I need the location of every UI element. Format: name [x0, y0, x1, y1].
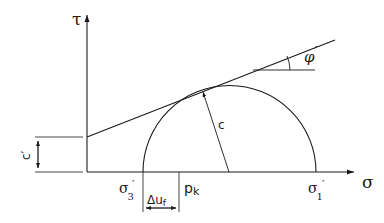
sigma1-label: σ1′: [308, 178, 325, 202]
mohr-diagram: τ σ φ′ c c′ σ3′ pk Δuf σ1′: [0, 0, 384, 223]
delta-u-label: Δuf: [147, 193, 167, 208]
radius-c-line: [203, 92, 229, 172]
failure-envelope-line: [87, 40, 335, 137]
phi-prime-label: φ′: [304, 45, 318, 66]
mohr-circle: [143, 86, 316, 173]
radius-c-label: c: [218, 118, 225, 132]
sigma3-label: σ3′: [119, 178, 135, 202]
pk-label: pk: [184, 180, 200, 198]
sigma-axis-label: σ: [362, 172, 374, 192]
tau-axis-label: τ: [72, 9, 81, 29]
c-prime-label: c′: [19, 150, 33, 160]
